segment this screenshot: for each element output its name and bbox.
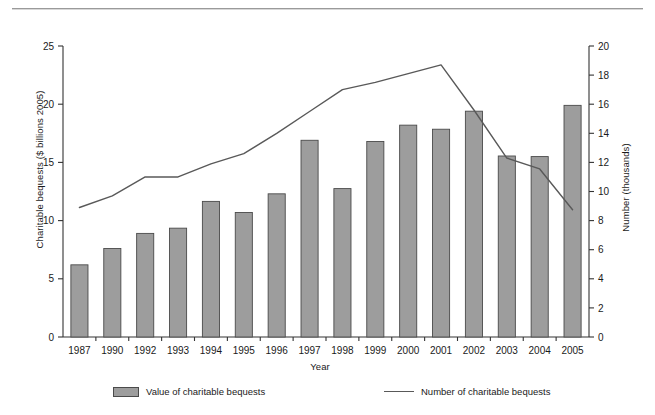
x-axis-tick-label: 2002 — [463, 345, 486, 356]
legend-item-value-of-charitable-bequests[interactable]: Value of charitable bequests — [113, 386, 265, 397]
x-axis-tick-label: 1993 — [167, 345, 190, 356]
x-axis-tick-label: 2005 — [561, 345, 584, 356]
y-axis-right-tick-label: 14 — [598, 128, 610, 139]
y-axis-left-title: Charitable bequests ($ billions 2005) — [34, 70, 45, 270]
bar-1987[interactable] — [71, 265, 88, 337]
chart-figure: 0510152025024681012141618201987199019921… — [0, 0, 655, 415]
bar-2000[interactable] — [400, 125, 417, 337]
x-axis-tick-label: 1999 — [364, 345, 387, 356]
y-axis-right-tick-label: 8 — [598, 215, 604, 226]
bar-1999[interactable] — [367, 141, 384, 337]
bar-1996[interactable] — [268, 194, 285, 337]
x-axis-tick-label: 1995 — [233, 345, 256, 356]
legend-item-number-of-charitable-bequests[interactable]: Number of charitable bequests — [384, 386, 550, 397]
bar-2004[interactable] — [531, 157, 548, 337]
bar-2003[interactable] — [498, 156, 515, 337]
x-axis-tick-label: 1987 — [68, 345, 91, 356]
y-axis-left-tick-label: 5 — [48, 273, 54, 284]
y-axis-right-tick-label: 0 — [598, 332, 604, 343]
y-axis-right-title: Number (thousands) — [620, 108, 631, 268]
y-axis-left-tick-label: 25 — [43, 41, 55, 52]
bar-1992[interactable] — [137, 233, 154, 337]
y-axis-right-tick-label: 10 — [598, 186, 610, 197]
bar-2001[interactable] — [433, 129, 450, 337]
y-axis-left-tick-label: 10 — [43, 215, 55, 226]
legend-line-label: Number of charitable bequests — [421, 386, 550, 397]
dual-axis-chart-plot: 0510152025024681012141618201987199019921… — [0, 0, 655, 415]
x-axis-tick-label: 1997 — [298, 345, 321, 356]
bar-1993[interactable] — [170, 228, 187, 337]
x-axis-tick-label: 1990 — [101, 345, 124, 356]
bar-2002[interactable] — [465, 111, 482, 337]
y-axis-left-tick-label: 0 — [48, 332, 54, 343]
y-axis-right-tick-label: 16 — [598, 99, 610, 110]
x-axis-tick-label: 1998 — [331, 345, 354, 356]
y-axis-right-tick-label: 20 — [598, 41, 610, 52]
bar-2005[interactable] — [564, 105, 581, 337]
y-axis-right-tick-label: 2 — [598, 303, 604, 314]
bar-1994[interactable] — [202, 201, 219, 337]
y-axis-left-tick-label: 15 — [43, 157, 55, 168]
x-axis-tick-label: 1994 — [200, 345, 223, 356]
legend-line-swatch-icon — [384, 391, 414, 392]
chart-legend: Value of charitable bequests Number of c… — [0, 386, 655, 406]
y-axis-right-tick-label: 6 — [598, 244, 604, 255]
bar-1990[interactable] — [104, 249, 121, 337]
y-axis-left-tick-label: 20 — [43, 99, 55, 110]
x-axis-tick-label: 2004 — [529, 345, 552, 356]
bar-1998[interactable] — [334, 189, 351, 337]
x-axis-tick-label: 2000 — [397, 345, 420, 356]
x-axis-tick-label: 1996 — [266, 345, 289, 356]
y-axis-right-tick-label: 12 — [598, 157, 610, 168]
y-axis-right-tick-label: 4 — [598, 273, 604, 284]
x-axis-title: Year — [0, 361, 640, 372]
x-axis-tick-label: 1992 — [134, 345, 157, 356]
y-axis-right-tick-label: 18 — [598, 70, 610, 81]
x-axis-tick-label: 2001 — [430, 345, 453, 356]
bar-1997[interactable] — [301, 140, 318, 337]
legend-bar-swatch-icon — [113, 387, 139, 397]
legend-bar-label: Value of charitable bequests — [146, 386, 265, 397]
x-axis-tick-label: 2003 — [496, 345, 519, 356]
bar-1995[interactable] — [235, 212, 252, 337]
